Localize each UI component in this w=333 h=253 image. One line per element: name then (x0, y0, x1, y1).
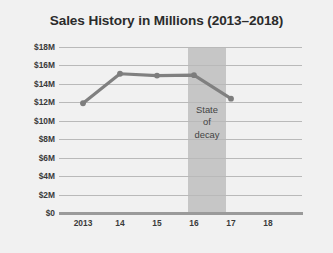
y-tick-label: $12M (9, 98, 55, 106)
x-axis-labels: 20131415161718 (0, 219, 333, 233)
state-of-decay-label: Stateofdecay (188, 104, 226, 141)
gridline (59, 176, 302, 177)
y-tick-label: $0 (9, 209, 55, 217)
y-tick-label: $8M (9, 135, 55, 143)
x-tick-label: 14 (100, 219, 140, 227)
gridline (59, 47, 302, 48)
y-tick-label: $14M (9, 80, 55, 88)
x-axis-line (59, 212, 303, 215)
gridline (59, 139, 302, 140)
y-tick-label: $18M (9, 43, 55, 51)
x-tick-label: 16 (174, 219, 214, 227)
sales-history-chart-card: Sales History in Millions (2013–2018) $0… (0, 0, 333, 253)
y-axis-labels: $0$2M$4M$6M$8M$10M$12M$14M$16M$18M (7, 0, 55, 253)
y-tick-label: $4M (9, 172, 55, 180)
state-of-decay-line: decay (188, 129, 226, 141)
x-tick-label: 2013 (63, 219, 103, 227)
gridline (59, 158, 302, 159)
gridline (59, 102, 302, 103)
gridline (59, 195, 302, 196)
state-of-decay-line: of (188, 116, 226, 128)
y-tick-label: $6M (9, 154, 55, 162)
x-tick-label: 17 (211, 219, 251, 227)
gridline (59, 65, 302, 66)
x-tick-label: 18 (248, 219, 288, 227)
plot-area (59, 47, 302, 213)
state-of-decay-line: State (188, 104, 226, 116)
gridline (59, 84, 302, 85)
y-tick-label: $2M (9, 191, 55, 199)
y-tick-label: $16M (9, 61, 55, 69)
x-tick-label: 15 (137, 219, 177, 227)
gridline (59, 121, 302, 122)
y-tick-label: $10M (9, 117, 55, 125)
